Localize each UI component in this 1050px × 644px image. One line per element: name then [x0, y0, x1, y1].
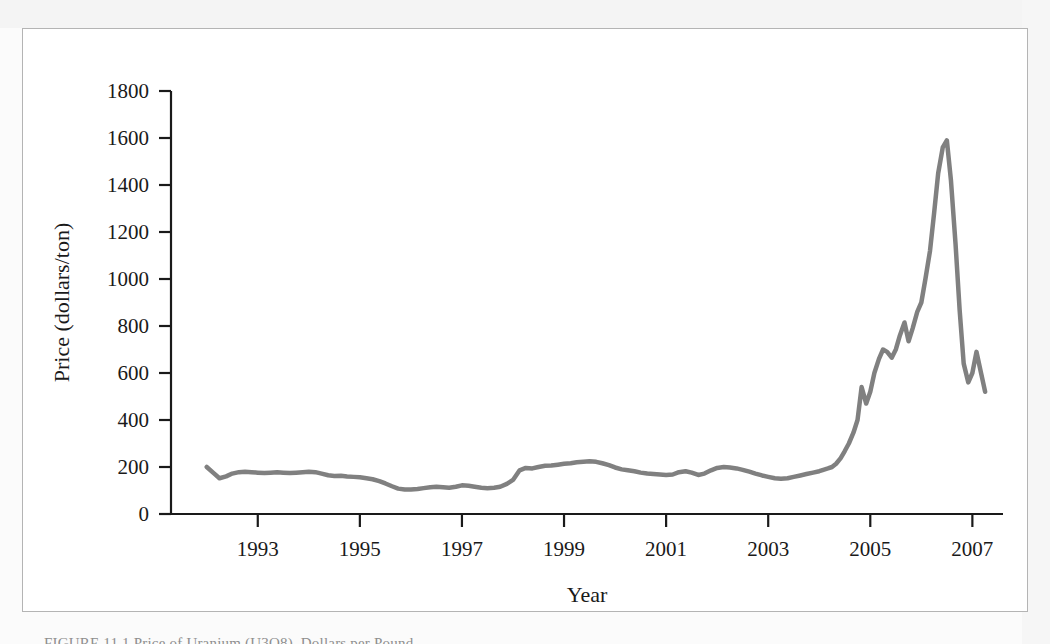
y-tick-label: 1000 [107, 267, 149, 291]
y-tick-label: 0 [139, 502, 150, 526]
y-tick-label: 1400 [107, 173, 149, 197]
y-tick-label: 800 [118, 314, 150, 338]
x-tick-label: 1999 [543, 537, 585, 561]
page-top-margin [0, 0, 1022, 28]
x-tick-label: 2005 [849, 537, 891, 561]
y-axis-title: Price (dollars/ton) [49, 223, 74, 382]
x-tick-label: 1995 [339, 537, 381, 561]
x-tick-label: 2003 [747, 537, 789, 561]
y-tick-label: 400 [118, 408, 150, 432]
y-tick-label: 600 [118, 361, 150, 385]
y-tick-label: 1200 [107, 220, 149, 244]
x-tick-label: 1997 [441, 537, 483, 561]
x-tick-label: 2007 [951, 537, 993, 561]
y-tick-label: 200 [118, 455, 150, 479]
y-tick-label: 1600 [107, 126, 149, 150]
page-root: 0200400600800100012001400160018001993199… [0, 0, 1050, 644]
line-chart: 0200400600800100012001400160018001993199… [23, 29, 1029, 613]
y-tick-label: 1800 [107, 79, 149, 103]
figure-box: 0200400600800100012001400160018001993199… [22, 28, 1028, 612]
x-tick-label: 1993 [237, 537, 279, 561]
x-axis-title: Year [567, 582, 608, 607]
series-line-0 [207, 140, 985, 489]
x-tick-label: 2001 [645, 537, 687, 561]
figure-caption: FIGURE 11.1 Price of Uranium (U3O8), Dol… [44, 628, 944, 644]
